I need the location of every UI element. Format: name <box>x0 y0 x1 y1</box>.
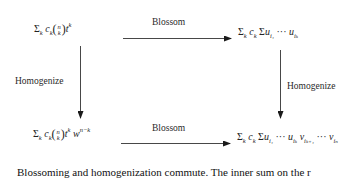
figure-caption: Blossoming and homogenization commute. T… <box>17 166 311 178</box>
u-first-index: i₁ <box>270 32 274 39</box>
edge-label-left: Homogenize <box>15 76 64 86</box>
ellipsis: ··· <box>275 131 285 142</box>
w-exponent: n−k <box>80 126 91 133</box>
coefficient-index: k <box>254 32 257 39</box>
sum-index: k <box>243 137 246 144</box>
paren-open: ( <box>53 22 57 36</box>
binomial-bottom: k <box>58 30 61 36</box>
v-first-index: iₖ₊₁ <box>304 137 314 144</box>
sum-index: k <box>244 32 247 39</box>
binomial: nk <box>58 24 61 36</box>
node-bottom-right: Σk ck Σui₁ ··· uiₖ viₖ₊₁ ··· viₙ <box>237 131 338 142</box>
binomial-bottom: k <box>57 135 60 141</box>
node-top-right: Σk ck Σui₁ ··· uiₖ <box>238 26 298 37</box>
edge-label-bottom: Blossom <box>152 123 185 133</box>
u-last-index: iₖ <box>294 32 298 39</box>
node-top-left: Σk ck(nk)tk <box>34 22 71 37</box>
v-last-index: iₙ <box>333 137 337 144</box>
binomial: nk <box>57 129 60 141</box>
edge-label-top: Blossom <box>152 17 185 27</box>
sum-index: k <box>40 29 43 36</box>
u-first-index: i₁ <box>269 137 273 144</box>
ellipsis: ··· <box>316 131 326 142</box>
sum-index: k <box>39 134 42 141</box>
exponent: k <box>69 21 72 28</box>
ellipsis: ··· <box>276 26 286 37</box>
exponent: k <box>68 126 71 133</box>
paren-open: ( <box>52 127 56 141</box>
u-last-index: iₖ <box>293 137 297 144</box>
edge-label-right: Homogenize <box>287 81 336 91</box>
variable-w: w <box>73 128 80 139</box>
node-bottom-left: Σk ck(nk)tk wn−k <box>33 127 90 142</box>
coefficient-index: k <box>253 137 256 144</box>
